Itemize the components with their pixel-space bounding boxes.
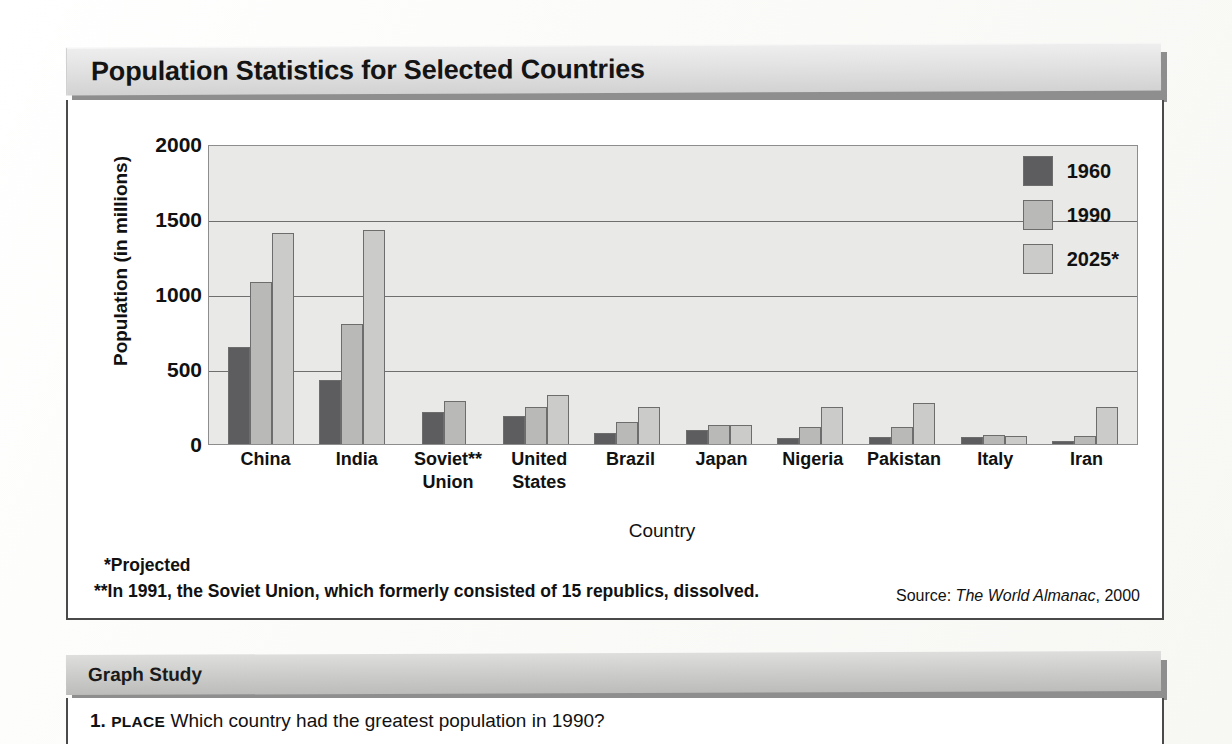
bar xyxy=(616,422,638,445)
x-axis-label: China xyxy=(220,448,311,493)
source-title: The World Almanac xyxy=(956,587,1096,604)
bar xyxy=(983,435,1005,444)
y-tick-500: 500 xyxy=(126,358,202,382)
chart-footnotes: *Projected **In 1991, the Soviet Union, … xyxy=(94,552,759,605)
chart-title-bar: Population Statistics for Selected Count… xyxy=(66,43,1161,96)
question-number: 1. xyxy=(90,710,106,731)
bar-group xyxy=(215,146,307,444)
question-text: Which country had the greatest populatio… xyxy=(170,710,604,731)
bar xyxy=(1074,436,1096,444)
x-axis-label: Brazil xyxy=(585,448,676,493)
x-axis-label: Pakistan xyxy=(858,448,949,493)
bar xyxy=(891,427,913,444)
bar xyxy=(961,437,983,445)
y-tick-1500: 1500 xyxy=(126,208,202,232)
bar xyxy=(913,403,935,444)
bar xyxy=(799,427,821,444)
bar xyxy=(821,407,843,444)
legend-label-1990: 1990 xyxy=(1067,204,1112,227)
chart-legend: 1960 1990 2025* xyxy=(1023,156,1119,274)
x-axis-label: Japan xyxy=(676,448,767,493)
bar xyxy=(1052,441,1074,444)
legend-item-1960: 1960 xyxy=(1023,156,1119,186)
bar xyxy=(869,437,891,445)
bar-group xyxy=(673,146,765,444)
bar-groups xyxy=(209,146,1137,444)
x-axis-label: Italy xyxy=(950,448,1041,493)
x-axis-labels: ChinaIndiaSoviet**UnionUnitedStatesBrazi… xyxy=(214,448,1138,493)
page-title: Population Statistics for Selected Count… xyxy=(67,54,645,88)
graph-study-header: Graph Study xyxy=(66,651,1161,695)
legend-label-2025: 2025* xyxy=(1067,248,1119,271)
bar-group xyxy=(765,146,857,444)
textbook-page: Population Statistics for Selected Count… xyxy=(0,0,1232,744)
bar xyxy=(594,433,616,444)
x-axis-label: Soviet**Union xyxy=(402,448,493,493)
source-year: , 2000 xyxy=(1096,587,1140,604)
bar xyxy=(341,324,363,444)
bar xyxy=(422,412,444,444)
bar xyxy=(638,407,660,444)
bar xyxy=(1096,407,1118,444)
y-tick-2000: 2000 xyxy=(126,133,202,157)
x-axis-label: Nigeria xyxy=(767,448,858,493)
bar-group xyxy=(490,146,582,444)
legend-swatch-1990 xyxy=(1023,200,1053,230)
x-axis-label: India xyxy=(311,448,402,493)
bar xyxy=(444,401,466,445)
chart-card: Population (in millions) 2000 1500 1000 … xyxy=(66,100,1164,620)
plot-area: 1960 1990 2025* xyxy=(208,145,1138,445)
x-axis-label: UnitedStates xyxy=(494,448,585,493)
legend-item-2025: 2025* xyxy=(1023,244,1119,274)
footnote-projected: *Projected xyxy=(94,552,759,578)
y-axis-ticks: 2000 1500 1000 500 0 xyxy=(126,100,202,500)
legend-label-1960: 1960 xyxy=(1067,160,1112,183)
plot-wrapper: Population (in millions) 2000 1500 1000 … xyxy=(68,100,1166,500)
bar xyxy=(272,233,294,445)
bar-group xyxy=(581,146,673,444)
x-axis-title: Country xyxy=(68,520,1166,542)
graph-study-title: Graph Study xyxy=(66,664,202,687)
source-prefix: Source: xyxy=(896,587,951,604)
bar xyxy=(363,230,385,445)
bar xyxy=(686,430,708,444)
question-1: 1. PLACE Which country had the greatest … xyxy=(90,710,1162,732)
bar-group xyxy=(398,146,490,444)
footnote-soviet: **In 1991, the Soviet Union, which forme… xyxy=(94,578,759,604)
bar xyxy=(525,407,547,445)
bar xyxy=(503,416,525,444)
bar xyxy=(319,380,341,445)
bar xyxy=(708,425,730,444)
graph-study-body: 1. PLACE Which country had the greatest … xyxy=(66,698,1164,744)
legend-item-1990: 1990 xyxy=(1023,200,1119,230)
bar-group xyxy=(307,146,399,444)
bar xyxy=(777,438,799,444)
bar xyxy=(228,347,250,445)
y-tick-0: 0 xyxy=(126,433,202,457)
y-tick-1000: 1000 xyxy=(126,283,202,307)
bar xyxy=(250,282,272,444)
bar xyxy=(1005,436,1027,444)
bar xyxy=(730,425,752,444)
x-axis-label: Iran xyxy=(1041,448,1132,493)
bar xyxy=(547,395,569,445)
legend-swatch-2025 xyxy=(1023,244,1053,274)
bar-group xyxy=(856,146,948,444)
legend-swatch-1960 xyxy=(1023,156,1053,186)
question-tag: PLACE xyxy=(111,713,165,730)
chart-source: Source: The World Almanac, 2000 xyxy=(896,587,1140,605)
